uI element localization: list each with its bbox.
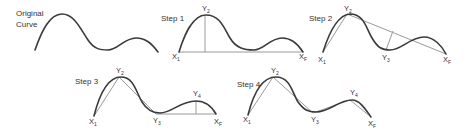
panel-original: Original Curve bbox=[16, 9, 158, 52]
diagram-canvas: Original Curve Step 1 X1 Y2 XF Step 2 X1… bbox=[0, 0, 467, 132]
step3-point-xf: XF bbox=[214, 117, 222, 127]
panel-step3: Step 3 X1 Y2 Y3 Y4 XF bbox=[75, 66, 222, 127]
step4-curve bbox=[248, 77, 371, 117]
step2-label: Step 2 bbox=[309, 14, 333, 23]
original-curve bbox=[35, 14, 158, 52]
original-label-line1: Original bbox=[16, 9, 44, 18]
step4-segment-y4-xf bbox=[350, 100, 371, 117]
step3-point-y2: Y2 bbox=[116, 66, 124, 76]
original-label-line2: Curve bbox=[16, 20, 38, 29]
step4-point-y3: Y3 bbox=[311, 115, 319, 125]
step1-point-xf: XF bbox=[299, 52, 307, 62]
step4-segment-y2-y3 bbox=[273, 77, 313, 113]
step3-point-x1: X1 bbox=[89, 117, 97, 127]
step4-label: Step 4 bbox=[237, 80, 261, 89]
step1-label: Step 1 bbox=[161, 14, 185, 23]
step4-point-x1: X1 bbox=[243, 115, 251, 125]
step4-point-xf: XF bbox=[368, 119, 376, 129]
step2-point-y2: Y2 bbox=[344, 4, 352, 14]
panel-step4: Step 4 X1 Y2 Y3 Y4 XF bbox=[237, 66, 376, 129]
step4-point-y2: Y2 bbox=[271, 66, 279, 76]
step2-point-y3: Y3 bbox=[382, 53, 390, 63]
step3-point-y4: Y4 bbox=[193, 89, 201, 99]
step1-point-y2: Y2 bbox=[202, 4, 210, 14]
panel-step1: Step 1 X1 Y2 XF bbox=[161, 4, 307, 62]
step3-segment-y2-y3 bbox=[119, 77, 156, 114]
step2-curve bbox=[323, 14, 446, 54]
panel-step2: Step 2 X1 Y2 Y3 XF bbox=[309, 4, 451, 65]
step1-curve bbox=[179, 15, 303, 52]
step3-label: Step 3 bbox=[75, 77, 99, 86]
step4-point-y4: Y4 bbox=[350, 88, 358, 98]
step2-max-distance-line bbox=[386, 31, 393, 50]
step2-point-xf: XF bbox=[443, 55, 451, 65]
step1-point-x1: X1 bbox=[172, 52, 180, 62]
step3-point-y3: Y3 bbox=[153, 116, 161, 126]
step2-point-x1: X1 bbox=[318, 55, 326, 65]
